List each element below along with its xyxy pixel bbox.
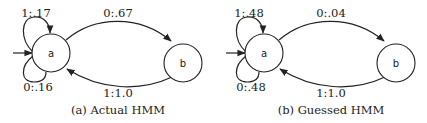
caption-a: (a) Actual HMM bbox=[71, 103, 165, 117]
state-b-label: b bbox=[180, 58, 186, 69]
caption-b: (b) Guessed HMM bbox=[278, 103, 385, 117]
state-b-label: b bbox=[393, 58, 399, 69]
edge-a-to-b-label: 0:.04 bbox=[316, 6, 345, 20]
edge-b-to-a-label: 1:1.0 bbox=[103, 86, 132, 100]
edge-a-to-b bbox=[66, 21, 171, 41]
loop-top-label: 1:.17 bbox=[21, 6, 50, 20]
hmm-figure: a b 1:.17 0:.16 0:.67 1:1.0 (a) Actual H… bbox=[0, 0, 427, 123]
edge-a-to-b bbox=[279, 21, 384, 41]
loop-bottom-label: 0:.16 bbox=[23, 80, 52, 94]
edge-b-to-a bbox=[67, 69, 172, 87]
edge-b-to-a bbox=[280, 69, 385, 87]
panel-actual-hmm: a b 1:.17 0:.16 0:.67 1:1.0 (a) Actual H… bbox=[13, 6, 202, 117]
panel-guessed-hmm: a b 1:.48 0:.48 0:.04 1:1.0 (b) Guessed … bbox=[226, 6, 415, 117]
loop-top-label: 1:.48 bbox=[234, 6, 263, 20]
state-a-label: a bbox=[48, 48, 54, 59]
state-a-label: a bbox=[261, 48, 267, 59]
edge-b-to-a-label: 1:1.0 bbox=[316, 86, 345, 100]
edge-a-to-b-label: 0:.67 bbox=[103, 6, 132, 20]
loop-bottom-label: 0:.48 bbox=[236, 80, 265, 94]
